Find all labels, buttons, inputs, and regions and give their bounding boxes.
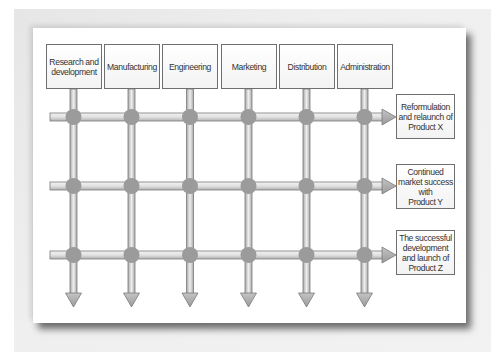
dept-box-manufacturing: Manufacturing bbox=[104, 44, 160, 89]
dept-box-research: Research and development bbox=[46, 44, 102, 89]
outcome-box-product-z: The successful development and launch of… bbox=[396, 230, 455, 275]
dept-box-distribution: Distribution bbox=[279, 44, 335, 89]
department-arrows bbox=[66, 89, 373, 307]
outcome-box-product-x: Reformulation and relaunch of Product X bbox=[396, 94, 455, 139]
project-arrow-y bbox=[50, 178, 396, 194]
dept-box-engineering: Engineering bbox=[162, 44, 218, 89]
dept-box-marketing: Marketing bbox=[221, 44, 277, 89]
project-arrows bbox=[50, 109, 396, 263]
project-arrow-x bbox=[50, 109, 396, 125]
dept-box-administration: Administration bbox=[337, 44, 393, 89]
project-arrow-z bbox=[50, 247, 396, 263]
outcome-box-product-y: Continued market success with Product Y bbox=[396, 164, 455, 209]
